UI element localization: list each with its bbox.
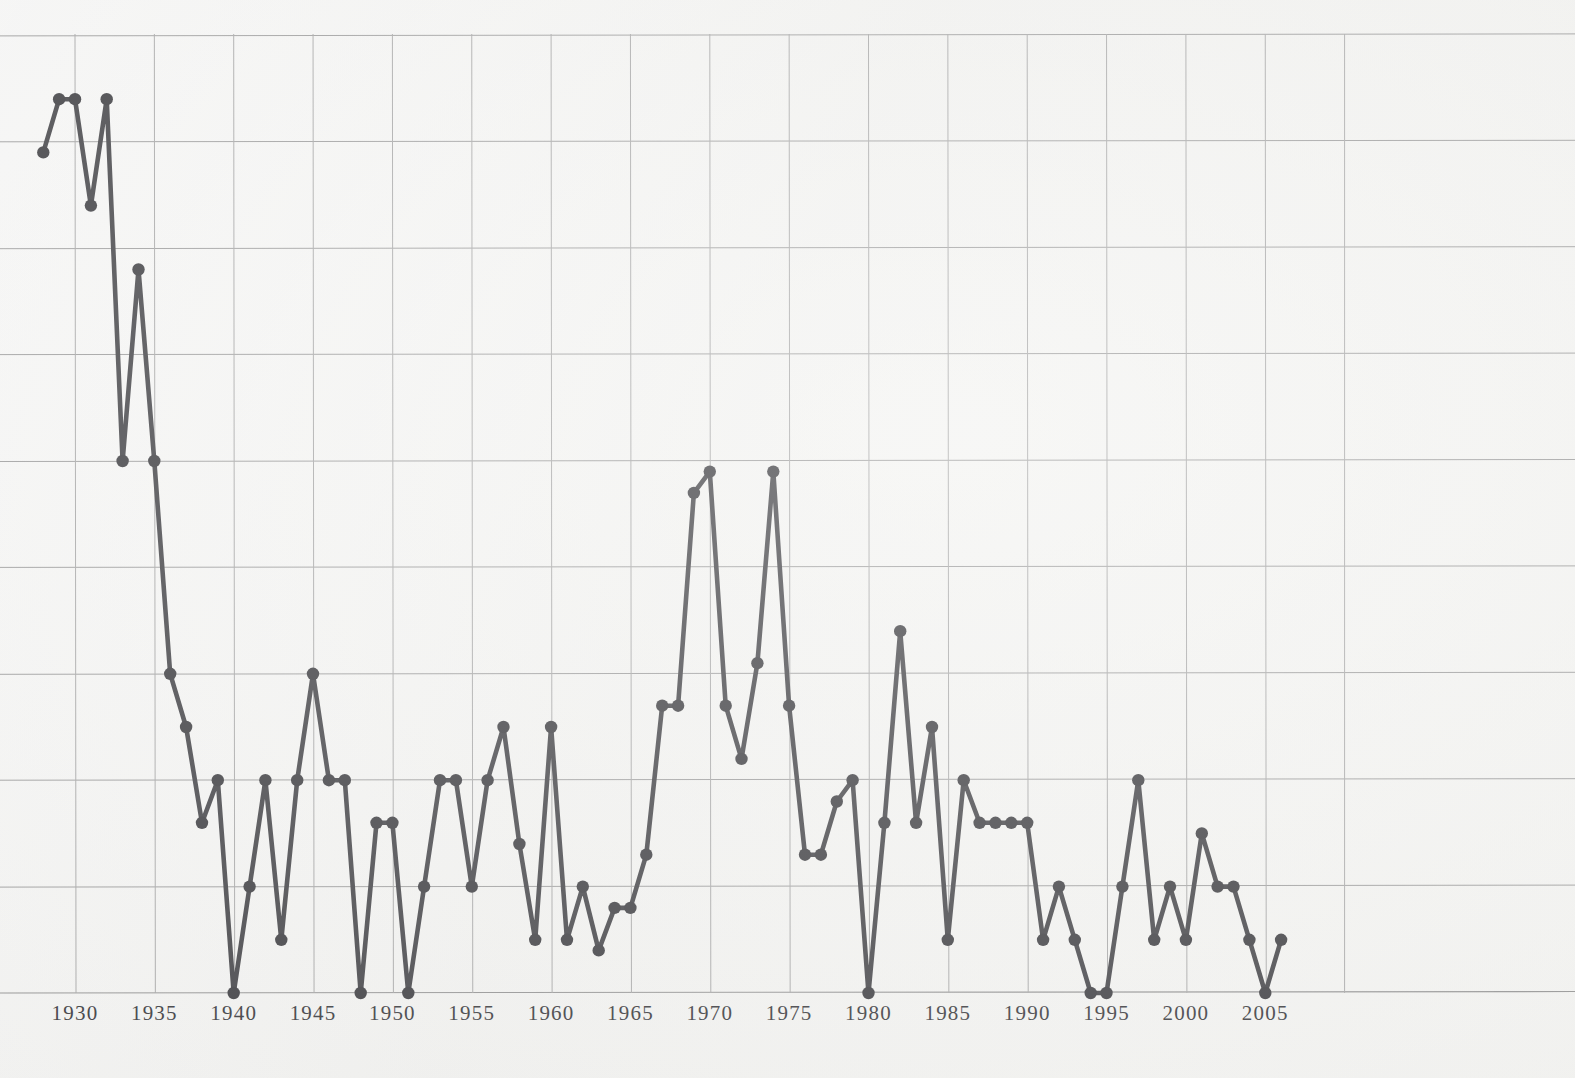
data-point [370, 817, 382, 829]
data-point [1243, 934, 1255, 946]
data-point [228, 987, 240, 999]
data-point [577, 880, 589, 892]
data-point [831, 795, 843, 807]
data-point [132, 263, 144, 275]
data-point [37, 146, 49, 158]
data-point [180, 721, 192, 733]
x-tick-label-1980: 1980 [845, 1001, 892, 1026]
data-point [418, 880, 430, 892]
data-point [259, 774, 271, 786]
data-point [323, 774, 335, 786]
data-point [212, 774, 224, 786]
data-point [878, 817, 890, 829]
data-point [291, 774, 303, 786]
data-point [751, 657, 763, 669]
data-point [973, 817, 985, 829]
data-point [1021, 817, 1033, 829]
horizontal-gridlines [0, 34, 1575, 993]
data-point [497, 721, 509, 733]
data-point [1069, 934, 1081, 946]
gridline-vertical [948, 34, 949, 993]
x-tick-label-1945: 1945 [290, 1001, 337, 1026]
gridline-vertical [1027, 34, 1028, 993]
data-point [1180, 934, 1192, 946]
data-point [1211, 880, 1223, 892]
data-point [69, 93, 81, 105]
data-point [529, 934, 541, 946]
data-point [85, 199, 97, 211]
data-point [386, 817, 398, 829]
data-point [481, 774, 493, 786]
gridline-horizontal [0, 353, 1575, 355]
data-point [783, 700, 795, 712]
x-tick-label-1995: 1995 [1083, 1001, 1130, 1026]
data-point [1196, 827, 1208, 839]
data-point [1037, 934, 1049, 946]
data-point [164, 668, 176, 680]
data-point [513, 838, 525, 850]
data-point [704, 465, 716, 477]
data-point [101, 93, 113, 105]
gridline-vertical [869, 34, 870, 993]
gridline-horizontal [0, 566, 1575, 568]
x-tick-label-1940: 1940 [210, 1001, 257, 1026]
data-point [1005, 817, 1017, 829]
gridline-horizontal [0, 34, 1575, 36]
x-tick-label-1955: 1955 [448, 1001, 495, 1026]
data-point [624, 902, 636, 914]
x-tick-label-2005: 2005 [1242, 1001, 1289, 1026]
data-point [402, 987, 414, 999]
data-point [989, 817, 1001, 829]
data-point [862, 987, 874, 999]
data-point [545, 721, 557, 733]
data-point [815, 849, 827, 861]
data-point [640, 849, 652, 861]
data-point [466, 880, 478, 892]
data-point [307, 668, 319, 680]
data-line-series [43, 99, 1281, 993]
data-point [656, 700, 668, 712]
data-point [243, 880, 255, 892]
gridline-horizontal [0, 779, 1575, 781]
gridline-vertical [1265, 34, 1266, 993]
data-point [720, 700, 732, 712]
data-point [926, 721, 938, 733]
data-point [846, 774, 858, 786]
data-point [894, 625, 906, 637]
x-tick-label-1960: 1960 [528, 1001, 575, 1026]
x-tick-label-1965: 1965 [607, 1001, 654, 1026]
data-point [799, 849, 811, 861]
data-point [593, 944, 605, 956]
x-tick-label-2000: 2000 [1162, 1001, 1209, 1026]
gridline-vertical [313, 34, 314, 993]
data-point [1116, 880, 1128, 892]
gridline-vertical [234, 34, 235, 993]
gridline-vertical [1186, 34, 1187, 993]
data-point [735, 753, 747, 765]
data-point [196, 817, 208, 829]
data-point [53, 93, 65, 105]
data-point [767, 465, 779, 477]
gridline-vertical [630, 34, 631, 993]
data-point [450, 774, 462, 786]
data-point [355, 987, 367, 999]
x-tick-label-1950: 1950 [369, 1001, 416, 1026]
data-point [561, 934, 573, 946]
gridline-vertical [75, 34, 76, 993]
gridline-vertical [789, 34, 790, 993]
data-point [1148, 934, 1160, 946]
data-point [910, 817, 922, 829]
data-point [1053, 880, 1065, 892]
gridline-horizontal [0, 140, 1575, 142]
gridline-horizontal [0, 247, 1575, 249]
data-point [608, 902, 620, 914]
data-point [1132, 774, 1144, 786]
x-tick-label-1975: 1975 [766, 1001, 813, 1026]
data-point [434, 774, 446, 786]
gridline-vertical [472, 34, 473, 993]
x-tick-label-1985: 1985 [924, 1001, 971, 1026]
data-point [672, 700, 684, 712]
data-point [116, 455, 128, 467]
gridline-vertical [1107, 34, 1108, 993]
data-point [958, 774, 970, 786]
